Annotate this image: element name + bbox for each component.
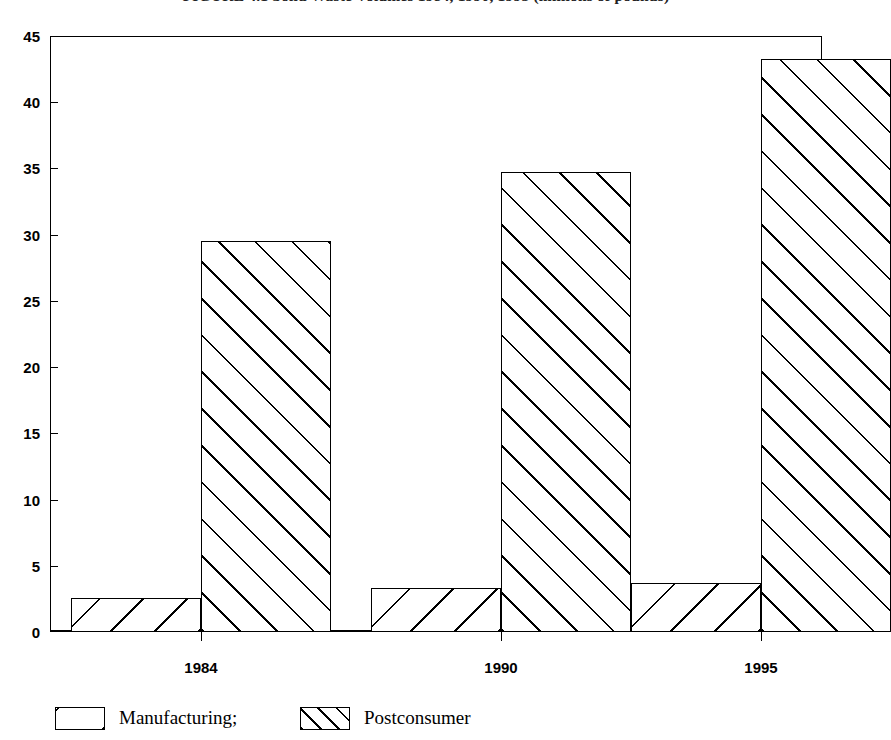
legend-label-postconsumer: Postconsumer xyxy=(364,707,471,729)
y-tick-label: 20 xyxy=(0,360,40,375)
y-tick-mark xyxy=(50,367,58,368)
y-tick-label: 5 xyxy=(0,559,40,574)
bar-1995-manufacturing xyxy=(631,583,761,632)
y-tick-mark xyxy=(50,235,58,236)
y-tick-mark xyxy=(50,500,58,501)
y-tick-label: 10 xyxy=(0,493,40,508)
legend-swatch-postconsumer-icon xyxy=(300,707,350,730)
y-tick-label: 15 xyxy=(0,426,40,441)
y-tick-mark xyxy=(50,102,58,103)
x-tick-mark xyxy=(501,632,502,641)
legend-entry-manufacturing: Manufacturing; xyxy=(55,700,237,736)
legend-label-manufacturing: Manufacturing; xyxy=(119,707,237,729)
legend-swatch-manufacturing-icon xyxy=(55,707,105,730)
bar-1995-postconsumer xyxy=(761,59,891,632)
bar-1990-manufacturing xyxy=(371,588,501,632)
x-tick-label-1990: 1990 xyxy=(441,660,561,675)
x-tick-mark xyxy=(761,632,762,641)
plot-frame xyxy=(50,36,822,632)
y-tick-mark xyxy=(50,36,58,37)
y-tick-mark xyxy=(50,566,58,567)
y-tick-label: 45 xyxy=(0,29,40,44)
bar-1984-postconsumer xyxy=(201,241,331,632)
y-tick-label: 40 xyxy=(0,95,40,110)
y-tick-mark xyxy=(50,301,58,302)
legend-entry-postconsumer: Postconsumer xyxy=(300,700,471,736)
chart-legend: Manufacturing; Postconsumer xyxy=(0,700,852,740)
x-tick-label-1984: 1984 xyxy=(141,660,261,675)
bar-1990-postconsumer xyxy=(501,172,631,632)
x-tick-label-1995: 1995 xyxy=(701,660,821,675)
y-tick-mark xyxy=(50,433,58,434)
y-tick-label: 35 xyxy=(0,161,40,176)
y-tick-mark xyxy=(50,168,58,169)
y-tick-label: 0 xyxy=(0,625,40,640)
bar-1984-manufacturing xyxy=(71,598,201,632)
x-tick-mark xyxy=(201,632,202,641)
y-tick-label: 30 xyxy=(0,228,40,243)
y-tick-label: 25 xyxy=(0,294,40,309)
